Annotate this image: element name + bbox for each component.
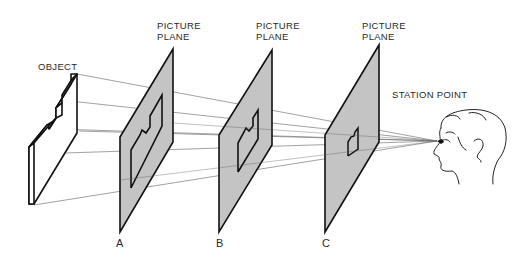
- picture-plane-c: [325, 45, 379, 232]
- head-icon: [434, 110, 506, 184]
- picture-plane-a: [120, 49, 173, 232]
- plane-c-letter: C: [322, 237, 330, 249]
- picture-plane-b: [219, 50, 272, 232]
- plane-c-label-line1: PICTURE: [362, 20, 406, 31]
- plane-a-letter: A: [116, 237, 123, 249]
- plane-c-label-line2: PLANE: [362, 31, 395, 42]
- plane-b-letter: B: [216, 237, 223, 249]
- object-shape: [29, 74, 77, 204]
- plane-a-label-line1: PICTURE: [157, 20, 201, 31]
- plane-b-label-line2: PLANE: [256, 31, 289, 42]
- object-label: OBJECT: [38, 61, 77, 72]
- station-point-label: STATION POINT: [392, 89, 467, 100]
- plane-a-label-line2: PLANE: [157, 31, 190, 42]
- plane-b-label-line1: PICTURE: [256, 20, 300, 31]
